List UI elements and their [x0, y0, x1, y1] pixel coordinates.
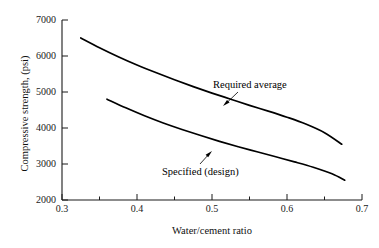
- annotation-arrow-required: [223, 92, 238, 106]
- y-axis-ticks: [62, 20, 68, 200]
- x-tick-label-0.5: 0.5: [202, 204, 222, 214]
- series-label-specified-design: Specified (design): [162, 166, 239, 177]
- x-tick-label-0.6: 0.6: [277, 204, 297, 214]
- y-axis-title: Compressive strength, (psi): [19, 34, 30, 194]
- x-tick-label-0.3: 0.3: [52, 204, 72, 214]
- x-tick-label-0.7: 0.7: [352, 204, 372, 214]
- x-axis-ticks: [62, 194, 362, 200]
- x-axis-title: Water/cement ratio: [132, 225, 292, 236]
- x-tick-label-0.4: 0.4: [127, 204, 147, 214]
- chart-figure: 7000 6000 5000 4000 3000 2000 0.3 0.4 0.…: [0, 0, 379, 248]
- y-tick-label-7000: 7000: [24, 15, 56, 25]
- annotation-arrow-specified: [200, 151, 212, 164]
- series-line-required-average: [81, 38, 342, 144]
- series-label-required-average: Required average: [213, 79, 287, 90]
